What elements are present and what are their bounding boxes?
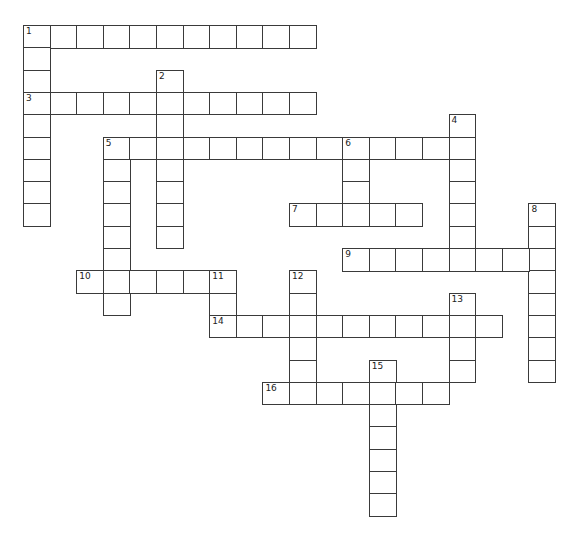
crossword-cell[interactable]: 16 [262, 382, 290, 406]
crossword-cell[interactable] [449, 315, 477, 339]
crossword-cell[interactable] [342, 315, 370, 339]
crossword-cell[interactable] [449, 203, 477, 227]
crossword-cell[interactable] [449, 137, 477, 161]
crossword-cell[interactable] [422, 248, 450, 272]
crossword-cell[interactable] [528, 337, 556, 361]
crossword-cell[interactable] [156, 270, 184, 294]
crossword-cell[interactable]: 4 [449, 114, 477, 138]
crossword-cell[interactable] [369, 203, 397, 227]
crossword-cell[interactable] [369, 315, 397, 339]
crossword-cell[interactable] [209, 25, 237, 49]
crossword-cell[interactable]: 15 [369, 360, 397, 384]
crossword-cell[interactable]: 9 [342, 248, 370, 272]
crossword-cell[interactable] [156, 203, 184, 227]
crossword-cell[interactable] [156, 114, 184, 138]
crossword-cell[interactable] [183, 137, 211, 161]
crossword-cell[interactable] [236, 25, 264, 49]
crossword-cell[interactable] [236, 137, 264, 161]
crossword-cell[interactable] [289, 360, 317, 384]
crossword-cell[interactable] [209, 137, 237, 161]
crossword-cell[interactable] [316, 137, 344, 161]
crossword-cell[interactable] [183, 25, 211, 49]
crossword-cell[interactable] [156, 92, 184, 116]
crossword-cell[interactable] [262, 315, 290, 339]
crossword-cell[interactable]: 13 [449, 293, 477, 317]
crossword-cell[interactable] [342, 159, 370, 183]
crossword-cell[interactable] [209, 92, 237, 116]
crossword-cell[interactable] [129, 270, 157, 294]
crossword-cell[interactable] [156, 226, 184, 250]
crossword-cell[interactable] [369, 137, 397, 161]
crossword-cell[interactable] [236, 92, 264, 116]
crossword-cell[interactable] [369, 426, 397, 450]
crossword-cell[interactable] [23, 70, 51, 94]
crossword-cell[interactable] [395, 248, 423, 272]
crossword-cell[interactable] [449, 360, 477, 384]
crossword-cell[interactable]: 6 [342, 137, 370, 161]
crossword-cell[interactable] [23, 203, 51, 227]
crossword-cell[interactable] [23, 114, 51, 138]
crossword-cell[interactable] [342, 181, 370, 205]
crossword-cell[interactable]: 5 [103, 137, 131, 161]
crossword-cell[interactable] [23, 159, 51, 183]
crossword-cell[interactable] [395, 382, 423, 406]
crossword-cell[interactable] [528, 293, 556, 317]
crossword-cell[interactable] [369, 449, 397, 473]
crossword-cell[interactable] [156, 159, 184, 183]
crossword-cell[interactable] [103, 159, 131, 183]
crossword-cell[interactable] [342, 203, 370, 227]
crossword-cell[interactable]: 8 [528, 203, 556, 227]
crossword-cell[interactable] [76, 92, 104, 116]
crossword-cell[interactable] [449, 181, 477, 205]
crossword-cell[interactable] [103, 181, 131, 205]
crossword-cell[interactable] [103, 25, 131, 49]
crossword-cell[interactable] [262, 25, 290, 49]
crossword-cell[interactable] [502, 248, 530, 272]
crossword-cell[interactable] [23, 47, 51, 71]
crossword-cell[interactable] [289, 92, 317, 116]
crossword-cell[interactable] [369, 248, 397, 272]
crossword-cell[interactable] [316, 203, 344, 227]
crossword-cell[interactable] [395, 203, 423, 227]
crossword-cell[interactable] [289, 25, 317, 49]
crossword-cell[interactable] [209, 293, 237, 317]
crossword-cell[interactable] [369, 404, 397, 428]
crossword-cell[interactable]: 1 [23, 25, 51, 49]
crossword-cell[interactable] [156, 137, 184, 161]
crossword-cell[interactable] [262, 137, 290, 161]
crossword-cell[interactable]: 3 [23, 92, 51, 116]
crossword-cell[interactable] [50, 25, 78, 49]
crossword-cell[interactable] [183, 270, 211, 294]
crossword-cell[interactable] [449, 159, 477, 183]
crossword-cell[interactable] [289, 315, 317, 339]
crossword-cell[interactable] [50, 92, 78, 116]
crossword-cell[interactable] [129, 137, 157, 161]
crossword-cell[interactable] [369, 471, 397, 495]
crossword-cell[interactable] [528, 360, 556, 384]
crossword-cell[interactable] [369, 493, 397, 517]
crossword-cell[interactable] [183, 92, 211, 116]
crossword-cell[interactable]: 7 [289, 203, 317, 227]
crossword-cell[interactable] [236, 315, 264, 339]
crossword-cell[interactable] [23, 181, 51, 205]
crossword-cell[interactable] [103, 203, 131, 227]
crossword-cell[interactable] [103, 92, 131, 116]
crossword-cell[interactable] [129, 92, 157, 116]
crossword-cell[interactable] [449, 226, 477, 250]
crossword-cell[interactable] [528, 270, 556, 294]
crossword-cell[interactable]: 11 [209, 270, 237, 294]
crossword-cell[interactable] [103, 293, 131, 317]
crossword-cell[interactable] [422, 315, 450, 339]
crossword-cell[interactable] [369, 382, 397, 406]
crossword-cell[interactable]: 12 [289, 270, 317, 294]
crossword-cell[interactable] [103, 248, 131, 272]
crossword-cell[interactable] [316, 382, 344, 406]
crossword-cell[interactable] [103, 226, 131, 250]
crossword-cell[interactable] [449, 248, 477, 272]
crossword-cell[interactable] [289, 337, 317, 361]
crossword-cell[interactable] [289, 137, 317, 161]
crossword-cell[interactable] [289, 382, 317, 406]
crossword-cell[interactable] [23, 137, 51, 161]
crossword-cell[interactable] [262, 92, 290, 116]
crossword-cell[interactable] [475, 248, 503, 272]
